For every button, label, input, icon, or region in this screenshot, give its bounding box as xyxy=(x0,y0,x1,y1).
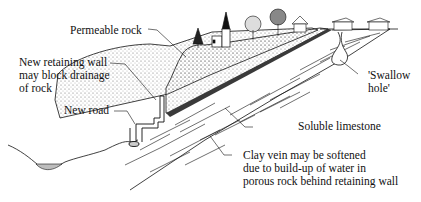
label-new-road: New road xyxy=(64,104,109,117)
label-permeable-rock: Permeable rock xyxy=(70,24,142,37)
pond xyxy=(36,164,62,170)
label-retaining-wall-1: New retaining wall xyxy=(19,56,107,69)
label-swallow-hole-2: hole' xyxy=(368,82,390,95)
label-retaining-wall-2: may block drainage xyxy=(19,69,110,82)
label-swallow-hole-1: 'Swallow xyxy=(368,69,410,82)
retaining-wall xyxy=(129,96,164,147)
label-soluble-limestone: Soluble limestone xyxy=(298,120,381,133)
diagram-canvas: Permeable rock New retaining wall may bl… xyxy=(0,0,421,202)
church-icon xyxy=(212,12,230,47)
ground-surface xyxy=(8,140,138,168)
label-clay-vein-3: porous rock behind retaining wall xyxy=(243,175,398,188)
label-clay-vein-2: due to build-up of water in xyxy=(243,162,366,175)
label-retaining-wall-3: of rock xyxy=(19,82,52,95)
label-clay-vein-1: Clay vein may be softened xyxy=(243,149,366,162)
